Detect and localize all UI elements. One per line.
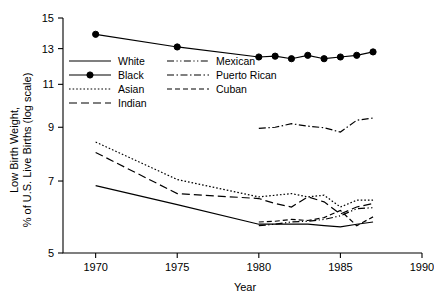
y-tick-label: 13 bbox=[42, 43, 54, 55]
y-tick-label: 5 bbox=[48, 247, 54, 259]
series-line bbox=[259, 118, 373, 132]
data-point-marker bbox=[93, 31, 99, 37]
legend-label: Black bbox=[118, 69, 144, 81]
legend-item-black[interactable]: Black bbox=[69, 69, 144, 81]
legend-label: Indian bbox=[118, 97, 147, 109]
legend-label: Asian bbox=[118, 83, 144, 95]
y-axis-tick-labels: 579111315 bbox=[42, 12, 54, 259]
x-tick-label: 1990 bbox=[410, 261, 434, 273]
x-tick-label: 1980 bbox=[247, 261, 271, 273]
legend-label: Puerto Rican bbox=[216, 69, 277, 81]
x-tick-label: 1975 bbox=[165, 261, 189, 273]
chart-legend: WhiteBlackAsianIndianMexicanPuerto Rican… bbox=[69, 55, 277, 109]
series-line bbox=[259, 210, 373, 225]
series-line bbox=[96, 152, 373, 214]
data-point-marker bbox=[337, 54, 343, 60]
legend-item-mexican[interactable]: Mexican bbox=[167, 55, 255, 67]
y-tick-label: 11 bbox=[43, 78, 54, 90]
legend-item-indian[interactable]: Indian bbox=[69, 97, 147, 109]
series-puerto-rican bbox=[259, 118, 373, 132]
series-line bbox=[259, 208, 373, 226]
x-axis-tick-labels: 19701975198019851990 bbox=[83, 261, 434, 273]
legend-label: Cuban bbox=[216, 83, 247, 95]
series-indian bbox=[96, 152, 373, 214]
legend-item-asian[interactable]: Asian bbox=[69, 83, 144, 95]
line-chart: 579111315 19701975198019851990 WhiteBlac… bbox=[0, 0, 434, 298]
x-tick-label: 1985 bbox=[328, 261, 352, 273]
data-point-marker bbox=[174, 44, 180, 50]
legend-item-white[interactable]: White bbox=[69, 55, 145, 67]
series-mexican bbox=[259, 208, 373, 226]
y-tick-label: 15 bbox=[42, 12, 54, 24]
legend-label: White bbox=[118, 55, 145, 67]
y-axis-title-line1: Low Birth Weight, bbox=[8, 107, 20, 193]
legend-item-puerto-rican[interactable]: Puerto Rican bbox=[167, 69, 277, 81]
x-axis-title: Year bbox=[234, 281, 257, 293]
data-point-marker bbox=[256, 54, 262, 60]
legend-label: Mexican bbox=[216, 55, 255, 67]
axis-ticks bbox=[58, 18, 422, 258]
legend-marker-icon bbox=[87, 72, 93, 78]
data-point-marker bbox=[272, 53, 278, 59]
y-axis-title-line2: % of U.S. Live Births (log scale) bbox=[21, 73, 33, 228]
chart-container: 579111315 19701975198019851990 WhiteBlac… bbox=[0, 0, 434, 298]
x-tick-label: 1970 bbox=[83, 261, 107, 273]
series-cuban bbox=[259, 210, 373, 225]
y-tick-label: 7 bbox=[48, 175, 54, 187]
data-point-marker bbox=[370, 49, 376, 55]
legend-item-cuban[interactable]: Cuban bbox=[167, 83, 247, 95]
y-tick-label: 9 bbox=[48, 121, 54, 133]
data-point-marker bbox=[354, 52, 360, 58]
data-point-marker bbox=[305, 52, 311, 58]
data-point-marker bbox=[288, 56, 294, 62]
data-point-marker bbox=[321, 56, 327, 62]
